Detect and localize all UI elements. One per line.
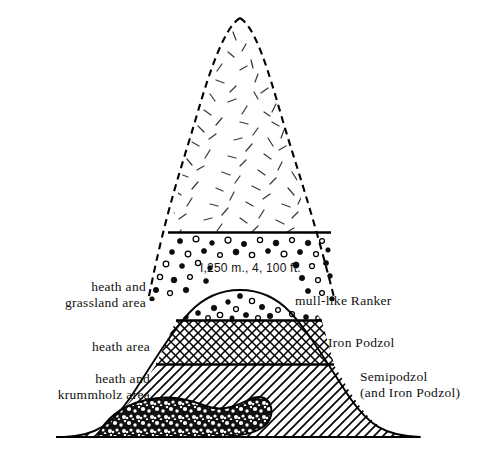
- elevation-annotation: I,250 m., 4, 100 ft.: [200, 261, 301, 275]
- label-heath-grassland-line1: heath and: [91, 279, 146, 294]
- label-semipodzol-line2: (and Iron Podzol): [360, 385, 460, 400]
- label-heath-krummholz-line2: krummholz area: [58, 387, 150, 402]
- soil-profile-figure: I,250 m., 4, 100 ft.: [0, 0, 486, 462]
- soil-profile-diagram: I,250 m., 4, 100 ft.: [0, 0, 486, 462]
- label-semipodzol-line1: Semipodzol: [360, 369, 428, 384]
- label-iron-podzol: Iron Podzol: [328, 335, 395, 350]
- label-mull-like-ranker: mull-like Ranker: [295, 293, 392, 308]
- label-heath-krummholz-line1: heath and: [95, 371, 150, 386]
- label-heath-area: heath area: [92, 339, 150, 354]
- label-heath-grassland-line2: grassland area: [65, 295, 146, 310]
